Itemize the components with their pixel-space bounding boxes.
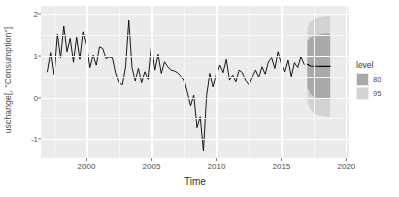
y-axis-title-text: uschange[, "Consumption"] xyxy=(3,27,13,134)
y-tick-label: 2 xyxy=(24,10,38,19)
x-tick-label: 2000 xyxy=(78,162,96,171)
y-tick-label: 0 xyxy=(24,93,38,102)
legend-title: level xyxy=(356,60,399,70)
gridline-vertical xyxy=(216,6,217,158)
x-tick-mark xyxy=(281,158,282,161)
x-tick-label: 2010 xyxy=(208,162,226,171)
legend-swatch-fill xyxy=(357,88,368,99)
legend-swatch xyxy=(356,87,369,100)
plot-panel xyxy=(41,6,349,158)
gridline-minor-horizontal xyxy=(41,35,349,36)
legend-item[interactable]: 80 xyxy=(356,73,399,86)
legend-items: 8095 xyxy=(356,73,399,100)
gridline-minor-vertical xyxy=(249,6,250,158)
legend-swatch xyxy=(356,73,369,86)
gridline-vertical xyxy=(151,6,152,158)
y-axis-ticks: -1012 xyxy=(18,0,38,160)
gridline-vertical xyxy=(281,6,282,158)
legend: level 8095 xyxy=(356,60,399,101)
gridline-minor-vertical xyxy=(314,6,315,158)
gridline-minor-vertical xyxy=(184,6,185,158)
gridline-minor-vertical xyxy=(119,6,120,158)
legend-swatch-fill xyxy=(357,74,368,85)
chart-container: uschange[, "Consumption"] -1012 20002005… xyxy=(0,0,399,197)
y-tick-label: -1 xyxy=(24,135,38,144)
gridline-vertical xyxy=(346,6,347,158)
x-axis-title: Time xyxy=(41,176,349,187)
x-axis-ticks: 20002005201020152020 xyxy=(41,158,349,172)
x-tick-mark xyxy=(151,158,152,161)
y-tick-label: 1 xyxy=(24,51,38,60)
gridline-minor-horizontal xyxy=(41,77,349,78)
x-tick-label: 2005 xyxy=(143,162,161,171)
x-tick-mark xyxy=(86,158,87,161)
x-tick-label: 2020 xyxy=(337,162,355,171)
gridline-vertical xyxy=(86,6,87,158)
legend-label: 80 xyxy=(373,75,381,84)
x-tick-mark xyxy=(346,158,347,161)
legend-item[interactable]: 95 xyxy=(356,87,399,100)
x-tick-label: 2015 xyxy=(273,162,291,171)
x-tick-mark xyxy=(216,158,217,161)
gridline-minor-vertical xyxy=(54,6,55,158)
y-axis-title: uschange[, "Consumption"] xyxy=(0,0,16,160)
gridline-minor-horizontal xyxy=(41,118,349,119)
legend-label: 95 xyxy=(373,89,381,98)
